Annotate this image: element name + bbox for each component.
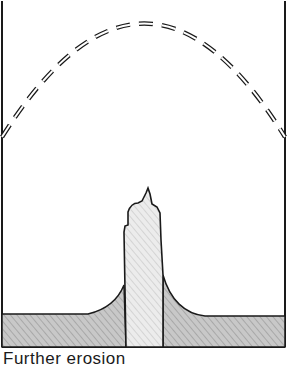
surrounding-rock <box>2 285 126 347</box>
surrounding-rock-right <box>163 275 285 347</box>
diagram-caption: Further erosion <box>3 349 126 368</box>
erosion-diagram <box>0 0 291 368</box>
volcanic-neck <box>124 188 163 347</box>
